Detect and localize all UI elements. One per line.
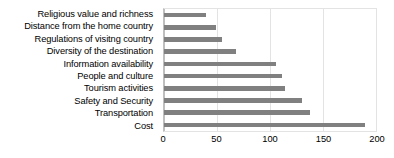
bar-row bbox=[164, 119, 376, 131]
category-label: Diversity of the destination bbox=[0, 45, 158, 57]
x-tick-label: 200 bbox=[369, 134, 385, 144]
category-label: Information availability bbox=[0, 58, 158, 70]
bar bbox=[164, 98, 302, 103]
bar bbox=[164, 123, 365, 128]
bar bbox=[164, 110, 310, 115]
bar bbox=[164, 86, 285, 91]
x-tick-label: 150 bbox=[316, 134, 332, 144]
plot-area bbox=[163, 8, 377, 132]
bar bbox=[164, 37, 222, 42]
category-axis-labels: Religious value and richness Distance fr… bbox=[0, 8, 158, 132]
category-label: Safety and Security bbox=[0, 95, 158, 107]
x-tick-label: 50 bbox=[211, 134, 221, 144]
bar-row bbox=[164, 33, 376, 45]
category-label: Cost bbox=[0, 120, 158, 132]
bar-row bbox=[164, 21, 376, 33]
bar-chart: Religious value and richness Distance fr… bbox=[0, 0, 394, 158]
bar bbox=[164, 49, 236, 54]
bar-row bbox=[164, 82, 376, 94]
bar-row bbox=[164, 94, 376, 106]
value-axis-labels: 050100150200 bbox=[163, 134, 377, 150]
bar-row bbox=[164, 46, 376, 58]
category-label: Religious value and richness bbox=[0, 8, 158, 20]
bar bbox=[164, 13, 206, 18]
bar-series bbox=[164, 9, 376, 131]
bar-row bbox=[164, 107, 376, 119]
bar-row bbox=[164, 70, 376, 82]
bar-row bbox=[164, 9, 376, 21]
bar bbox=[164, 62, 276, 67]
category-label: Transportation bbox=[0, 107, 158, 119]
category-label: People and culture bbox=[0, 70, 158, 82]
bar-row bbox=[164, 58, 376, 70]
category-label: Tourism activities bbox=[0, 82, 158, 94]
category-label: Distance from the home country bbox=[0, 20, 158, 32]
x-tick-label: 100 bbox=[262, 134, 278, 144]
category-label: Regulations of visitng country bbox=[0, 33, 158, 45]
gridline bbox=[376, 9, 377, 131]
bar bbox=[164, 74, 282, 79]
bar bbox=[164, 25, 216, 30]
x-tick-label: 0 bbox=[160, 134, 165, 144]
